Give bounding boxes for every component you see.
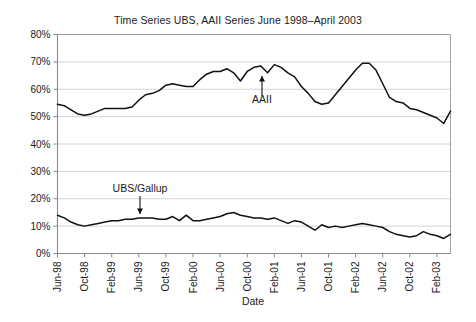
x-tick-label: Oct-01 xyxy=(323,261,334,291)
y-axis-ticks-group: 0%10%20%30%40%50%60%70%80% xyxy=(30,29,57,259)
x-tick-label: Oct-99 xyxy=(160,261,171,291)
x-axis-ticks-group: Jun-98Oct-98Feb-99Jun-99Oct-99Feb-00Jun-… xyxy=(52,254,442,294)
y-tick-label: 10% xyxy=(30,221,50,232)
x-tick-label: Feb-99 xyxy=(106,261,117,293)
y-tick-label: 80% xyxy=(30,29,50,40)
ubs-gallup-arrowhead xyxy=(137,209,143,215)
chart-container: Time Series UBS, AAII Series June 1998–A… xyxy=(0,0,476,322)
x-tick-label: Jun-00 xyxy=(215,261,226,292)
x-tick-label: Jun-98 xyxy=(52,261,63,292)
y-tick-label: 30% xyxy=(30,166,50,177)
ubs-gallup-label: UBS/Gallup xyxy=(113,182,168,194)
x-tick-label: Feb-00 xyxy=(188,261,199,293)
y-tick-label: 20% xyxy=(30,193,50,204)
x-tick-label: Feb-03 xyxy=(431,261,442,293)
x-tick-label: Oct-00 xyxy=(242,261,253,291)
y-tick-label: 60% xyxy=(30,84,50,95)
y-tick-label: 0% xyxy=(36,248,51,259)
x-tick-label: Feb-02 xyxy=(350,261,361,293)
y-tick-label: 40% xyxy=(30,139,50,150)
series-line-ubs-gallup xyxy=(58,212,451,238)
series-annotations-group: AAIIUBS/Gallup xyxy=(113,76,272,214)
x-tick-label: Jun-01 xyxy=(296,261,307,292)
x-tick-label: Oct-02 xyxy=(404,261,415,291)
x-tick-label: Oct-98 xyxy=(79,261,90,291)
y-tick-label: 70% xyxy=(30,56,50,67)
x-tick-label: Jun-02 xyxy=(377,261,388,292)
x-axis-title: Date xyxy=(242,295,264,307)
aaii-arrowhead xyxy=(259,76,265,82)
y-tick-label: 50% xyxy=(30,111,50,122)
x-tick-label: Jun-99 xyxy=(133,261,144,292)
x-tick-label: Feb-01 xyxy=(269,261,280,293)
chart-plot-svg: 0%10%20%30%40%50%60%70%80% Jun-98Oct-98F… xyxy=(0,0,476,322)
